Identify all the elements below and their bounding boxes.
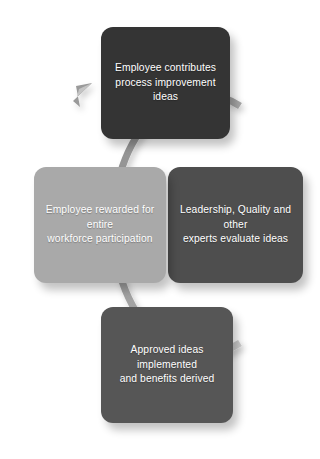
cycle-node-implement-label: Approved ideas implemented and benefits … (109, 343, 225, 387)
cycle-node-contribute-label: Employee contributes process improvement… (109, 61, 222, 105)
cycle-node-reward[interactable]: Employee rewarded for entire workforce p… (34, 167, 166, 283)
cycle-node-contribute[interactable]: Employee contributes process improvement… (101, 27, 230, 139)
cycle-arrowhead-icon (73, 83, 92, 107)
cycle-node-evaluate[interactable]: Leadership, Quality and other experts ev… (168, 167, 303, 283)
cycle-node-evaluate-label: Leadership, Quality and other experts ev… (176, 203, 295, 247)
cycle-node-implement[interactable]: Approved ideas implemented and benefits … (101, 307, 233, 423)
cycle-node-reward-label: Employee rewarded for entire workforce p… (42, 203, 158, 247)
cycle-diagram: Employee contributes process improvement… (0, 0, 320, 459)
